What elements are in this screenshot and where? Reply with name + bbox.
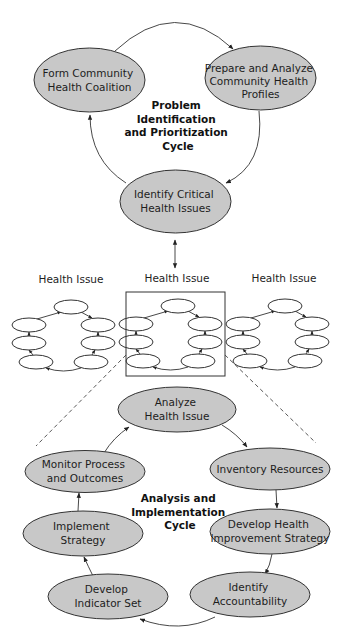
mini-arrow-2 (81, 312, 92, 318)
arrow-form-to-prepare (115, 22, 233, 51)
arrow-develop-strategy-to-accountability (265, 554, 272, 574)
mini-cycle-right (226, 299, 329, 370)
mini-node-1 (161, 299, 195, 313)
mini-node-6 (188, 335, 222, 349)
arrow-accountability-to-indicator (140, 617, 215, 626)
mini-node-3 (226, 335, 260, 349)
arrow-implement-to-monitor (78, 493, 79, 511)
upper-cycle-label: Problem Identification and Prioritizatio… (125, 99, 232, 152)
mini-node-2 (226, 317, 260, 331)
mini-arrow-5 (153, 367, 188, 370)
mini-arrow-6 (243, 349, 247, 354)
mini-arrow-1 (251, 311, 275, 318)
mini-node-1 (54, 300, 88, 314)
mini-node-1 (268, 299, 302, 313)
node-implement-strategy: Implement Strategy (23, 511, 143, 556)
mini-node-4 (19, 355, 53, 369)
health-issue-label-center: Health Issue (145, 272, 210, 284)
mini-node-4 (126, 354, 160, 368)
mini-cycle-left (12, 300, 115, 371)
mini-node-6 (295, 335, 329, 349)
mini-arrow-2 (188, 311, 199, 317)
mini-node-2 (119, 317, 153, 331)
mini-node-2 (12, 318, 46, 332)
arrow-indicator-to-implement (84, 557, 93, 576)
health-issue-label-right: Health Issue (252, 272, 317, 284)
node-inventory-resources: Inventory Resources (210, 448, 330, 490)
mini-node-3 (12, 336, 46, 350)
node-identify-accountability: Identify Accountability (190, 572, 310, 617)
arrow-prepare-to-identify (226, 111, 260, 183)
node-analyze-health-issue: Analyze Health Issue (118, 387, 236, 432)
mini-arrow-4 (199, 349, 202, 354)
mini-node-3 (119, 335, 153, 349)
mini-node-7 (188, 317, 222, 331)
node-identify-critical-health-issues: Identify Critical Health Issues (120, 170, 231, 233)
mini-arrow-5 (260, 367, 295, 370)
mini-arrow-1 (37, 312, 61, 319)
mini-arrow-4 (306, 349, 309, 354)
mini-node-5 (181, 354, 215, 368)
arrow-inventory-to-develop-strategy (276, 490, 277, 508)
node-form-community-health-coalition: Form Community Health Coalition (34, 48, 145, 112)
node-label: Inventory Resources (216, 463, 323, 475)
mini-arrow-6 (136, 349, 140, 354)
community-health-diagram: Form Community Health Coalition Prepare … (0, 0, 345, 637)
mini-node-4 (233, 354, 267, 368)
node-monitor-process-and-outcomes: Monitor Process and Outcomes (25, 451, 145, 493)
mini-node-7 (81, 318, 115, 332)
health-issue-label-left: Health Issue (39, 273, 104, 285)
mini-cycle-center (119, 299, 222, 370)
node-prepare-community-health-profiles: Prepare and Analyze Community Health Pro… (205, 46, 317, 110)
mini-node-5 (288, 354, 322, 368)
node-develop-indicator-set: Develop Indicator Set (48, 574, 168, 619)
arrow-monitor-to-analyze (104, 427, 129, 453)
mini-arrow-6 (29, 350, 33, 355)
mini-arrow-1 (144, 311, 168, 318)
mini-arrow-5 (46, 368, 81, 371)
mini-node-7 (295, 317, 329, 331)
mini-arrow-4 (92, 350, 95, 355)
mini-node-6 (81, 336, 115, 350)
mini-node-5 (74, 355, 108, 369)
arrow-identify-to-form (90, 115, 126, 183)
mini-arrow-2 (295, 311, 306, 317)
arrow-analyze-to-inventory (222, 425, 247, 447)
